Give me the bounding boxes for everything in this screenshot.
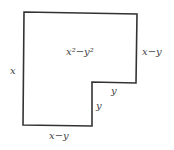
step-horizontal-label: y (110, 85, 117, 96)
diagram-canvas: x²−y² x x−y y y x−y (0, 0, 174, 150)
step-vertical-label: y (95, 100, 102, 111)
area-label: x²−y² (66, 46, 94, 57)
l-shape-region (23, 12, 137, 126)
bottom-side-label: x−y (49, 130, 69, 141)
right-side-label: x−y (142, 46, 162, 57)
left-side-label: x (10, 65, 16, 76)
